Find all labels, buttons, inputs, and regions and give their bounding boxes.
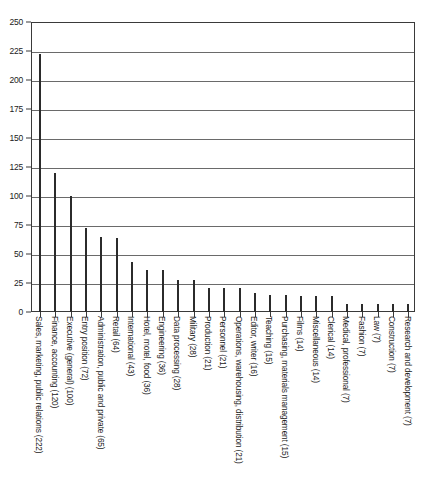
x-axis-tick-label: Teaching (15): [265, 316, 273, 364]
x-axis-tick-label: Sales, marketing, public relations (222): [35, 316, 43, 453]
y-axis-tick-label: 225: [9, 47, 23, 56]
x-axis-tick-label: Engineering (36): [158, 316, 166, 375]
bar: [54, 173, 56, 312]
bars-layer: [31, 22, 415, 312]
bar: [162, 270, 164, 312]
bar: [100, 237, 102, 312]
bar: [116, 238, 118, 312]
bar: [85, 228, 87, 312]
bar: [70, 196, 72, 312]
bar: [254, 293, 256, 312]
y-axis-tick-label: 75: [14, 221, 23, 230]
y-axis-tick-label: 100: [9, 192, 23, 201]
bar: [377, 304, 379, 312]
bar: [331, 296, 333, 312]
x-axis-tick-label: Films (14): [296, 316, 304, 351]
x-axis-tick-label: Editor, writer (16): [250, 316, 258, 376]
bar: [361, 304, 363, 312]
x-axis-tick-label: Construction (7): [388, 316, 396, 373]
bar: [285, 295, 287, 312]
bar: [269, 295, 271, 312]
x-axis-tick-label: Entry position (72): [81, 316, 89, 380]
bar: [392, 304, 394, 312]
x-axis-tick-label: Research and development (7): [403, 316, 411, 426]
x-axis-tick-label: Medical, professional (7): [342, 316, 350, 403]
x-axis-tick-label: Law (7): [373, 316, 381, 343]
x-axis-tick-label: Fashion (7): [357, 316, 365, 356]
x-axis-tick-label: Data processing (28): [173, 316, 181, 390]
bar: [239, 288, 241, 312]
y-axis: 0255075100125150175200225250: [0, 0, 31, 500]
x-axis-tick-label: Administration, public and private (65): [96, 316, 104, 449]
x-axis-tick-label: Hotel, motel, food (36): [142, 316, 150, 395]
bar: [300, 296, 302, 312]
y-axis-tick-label: 200: [9, 76, 23, 85]
x-axis-tick-label: Operations, warehousing, distribution (2…: [234, 316, 242, 464]
bar: [131, 262, 133, 312]
bar-chart: 0255075100125150175200225250 Sales, mark…: [0, 0, 428, 500]
y-axis-tick-label: 175: [9, 105, 23, 114]
x-axis-tick-label: Retail (64): [112, 316, 120, 353]
bar: [177, 280, 179, 312]
bar: [146, 270, 148, 312]
x-axis-tick-label: Clerical (14): [327, 316, 335, 359]
y-axis-tick-label: 125: [9, 163, 23, 172]
y-axis-tick-label: 50: [14, 250, 23, 259]
bar: [315, 296, 317, 312]
x-axis-tick-label: Finance, accounting (120): [50, 316, 58, 408]
bar: [193, 280, 195, 312]
y-axis-tick-label: 150: [9, 134, 23, 143]
x-axis-tick-label: Miscellaneous (14): [311, 316, 319, 383]
y-axis-tick-label: 0: [18, 308, 23, 317]
y-axis-tick-label: 250: [9, 18, 23, 27]
x-axis-tick-label: Personnel (21): [219, 316, 227, 368]
x-axis-tick-label: Production (21): [204, 316, 212, 370]
bar: [346, 304, 348, 312]
bar: [407, 304, 409, 312]
bar: [39, 54, 41, 312]
x-axis-tick-label: Military (28): [188, 316, 196, 357]
bar: [208, 288, 210, 312]
x-axis-tick-label: International (43): [127, 316, 135, 376]
bar: [223, 288, 225, 312]
x-axis-tick-label: Purchasing, materials management (15): [281, 316, 289, 458]
x-axis-labels: Sales, marketing, public relations (222)…: [31, 316, 415, 500]
x-axis-tick-label: Executive (general) (100): [66, 316, 74, 405]
y-axis-tick-label: 25: [14, 279, 23, 288]
